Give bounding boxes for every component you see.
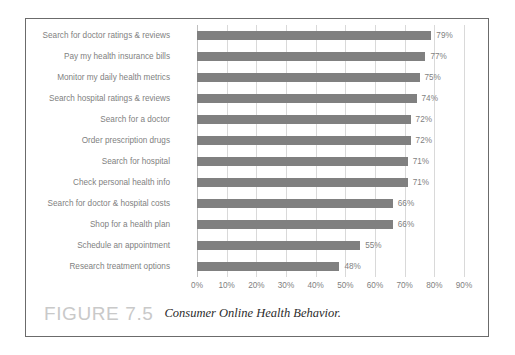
bar-row: Shop for a health plan66% [197, 214, 464, 235]
bar [197, 73, 420, 82]
bar-row: Research treatment options48% [197, 256, 464, 277]
bar-row: Search for doctor ratings & reviews79% [197, 25, 464, 46]
bar-value-label: 79% [436, 25, 452, 46]
category-label: Order prescription drugs [0, 130, 170, 151]
bar-row: Monitor my daily health metrics75% [197, 67, 464, 88]
bar [197, 136, 411, 145]
plot-area: Search for doctor ratings & reviews79%Pa… [197, 25, 464, 277]
bar-row: Search for a doctor72% [197, 109, 464, 130]
bar-value-label: 72% [416, 109, 432, 130]
category-label: Search for hospital [0, 151, 170, 172]
bar-value-label: 71% [413, 172, 429, 193]
category-label: Shop for a health plan [0, 214, 170, 235]
bar [197, 94, 417, 103]
category-label: Research treatment options [0, 256, 170, 277]
figure-caption: FIGURE 7.5 Consumer Online Health Behavi… [26, 291, 488, 336]
bar [197, 178, 408, 187]
bar-value-label: 66% [398, 193, 414, 214]
bar-value-label: 74% [422, 88, 438, 109]
category-label: Monitor my daily health metrics [0, 67, 170, 88]
category-label: Pay my health insurance bills [0, 46, 170, 67]
bar [197, 241, 360, 250]
bar [197, 52, 425, 61]
chart-area: Search for doctor ratings & reviews79%Pa… [26, 19, 488, 287]
figure-caption-text: Consumer Online Health Behavior. [164, 306, 340, 321]
bar [197, 199, 393, 208]
bar-value-label: 66% [398, 214, 414, 235]
bar [197, 262, 339, 271]
bar-row: Pay my health insurance bills77% [197, 46, 464, 67]
x-tick-label: 90% [444, 281, 484, 290]
bar-value-label: 72% [416, 130, 432, 151]
bar-value-label: 48% [344, 256, 360, 277]
bar [197, 220, 393, 229]
bar [197, 157, 408, 166]
bar-row: Schedule an appointment55% [197, 235, 464, 256]
gridline-90 [464, 25, 465, 277]
category-label: Search for doctor & hospital costs [0, 193, 170, 214]
figure-frame: Search for doctor ratings & reviews79%Pa… [25, 18, 489, 337]
bar-row: Check personal health info71% [197, 172, 464, 193]
bar-value-label: 77% [430, 46, 446, 67]
bar-row: Search for doctor & hospital costs66% [197, 193, 464, 214]
bar-row: Search for hospital71% [197, 151, 464, 172]
bar [197, 115, 411, 124]
category-label: Search hospital ratings & reviews [0, 88, 170, 109]
category-label: Check personal health info [0, 172, 170, 193]
category-label: Search for doctor ratings & reviews [0, 25, 170, 46]
figure-number: FIGURE 7.5 [44, 303, 153, 325]
bar-value-label: 71% [413, 151, 429, 172]
bar [197, 31, 431, 40]
bar-row: Order prescription drugs72% [197, 130, 464, 151]
category-label: Schedule an appointment [0, 235, 170, 256]
bar-row: Search hospital ratings & reviews74% [197, 88, 464, 109]
bar-value-label: 55% [365, 235, 381, 256]
bar-value-label: 75% [425, 67, 441, 88]
category-label: Search for a doctor [0, 109, 170, 130]
